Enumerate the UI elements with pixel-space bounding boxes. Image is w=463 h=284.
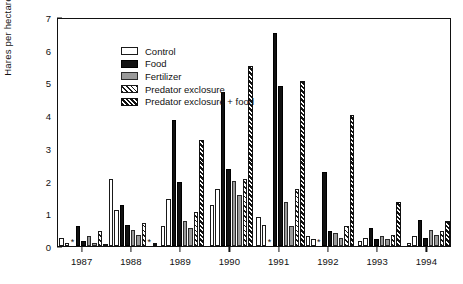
bar-1993-control [358,241,363,246]
bar-1989-control [166,199,171,246]
bar-1990-food [221,92,226,246]
y-axis-tick-4: 4 [46,111,57,122]
bar-1992-control [311,239,316,246]
legend: ControlFoodFertilizerPredator exclosureP… [121,45,254,108]
significance-marker: * [71,239,75,245]
bar-1991-food [273,33,278,246]
bar-1994-fert [434,235,439,246]
x-axis: 19871988198919901991199219931994 [57,247,451,281]
bar-1992-food [322,172,327,246]
bar-1991-food [278,86,283,246]
legend-label: Food [145,58,167,69]
bar-1991-fert [289,226,294,246]
y-axis-tick-1: 1 [46,209,57,220]
x-axis-tick-1987: 1987 [71,247,92,267]
x-axis-tick-mark [377,247,378,252]
bar-1988-food [125,225,130,246]
x-axis-tick-1988: 1988 [120,247,141,267]
bar-1987-exclfood [103,244,108,246]
y-axis-tick-label: 1 [46,209,51,220]
bar-1992-excl [344,226,349,246]
plot-area: **** ControlFoodFertilizerPredator exclo… [57,18,451,247]
bar-1993-fert [385,239,390,246]
legend-swatch-control-icon [121,47,138,55]
bar-1990-control [210,205,215,246]
x-axis-tick-label: 1991 [268,256,289,267]
bar-1992-food [328,231,333,246]
bar-1994-food [423,238,428,246]
bar-1988-food [120,205,125,246]
y-axis-tick-3: 3 [46,143,57,154]
significance-marker: * [317,239,321,245]
x-axis-tick-label: 1992 [317,256,338,267]
bar-1989-control [161,226,166,246]
bar-1992-fert [333,233,338,246]
bar-1991-control [256,217,261,246]
x-axis-tick-mark [426,247,427,252]
bar-1990-fert [232,181,237,246]
y-axis-tick-label: 4 [46,111,51,122]
x-axis-tick-mark [81,247,82,252]
y-axis-tick-7: 7 [46,13,57,24]
bar-1988-excl [142,223,147,246]
y-axis-tick-label: 3 [46,143,51,154]
bar-1990-food [226,169,231,246]
legend-item-excl: Predator exclosure [121,83,254,96]
bar-1987-fert [92,243,97,246]
bar-1991-fert [284,202,289,246]
legend-item-fert: Fertilizer [121,70,254,83]
bar-1987-control [59,238,64,246]
bar-1987-food [76,226,81,246]
y-axis-tick-6: 6 [46,45,57,56]
x-axis-tick-mark [229,247,230,252]
bar-1992-exclfood [350,115,355,246]
bar-1994-exclfood [445,221,450,246]
y-axis-title: Hares per hectare [2,0,13,96]
x-axis-tick-label: 1989 [170,256,191,267]
bar-1994-control [407,243,412,246]
x-axis-tick-1990: 1990 [219,247,240,267]
legend-swatch-excl-icon [121,85,138,93]
bar-1993-food [374,239,379,246]
y-axis-tick-2: 2 [46,176,57,187]
legend-swatch-food-icon [121,60,138,68]
x-axis-tick-mark [327,247,328,252]
bar-1987-excl [98,231,103,246]
y-axis-tick-label: 6 [46,45,51,56]
bar-1990-excl [243,179,248,246]
bar-1994-control [412,236,417,246]
x-axis-tick-mark [180,247,181,252]
x-axis-tick-1991: 1991 [268,247,289,267]
bar-1992-control [306,236,311,246]
bar-1991-exclfood [300,81,305,246]
legend-item-food: Food [121,58,254,71]
bar-1987-food [81,241,86,246]
legend-item-control: Control [121,45,254,58]
legend-item-exclfood: Predator exclosure + food [121,95,254,108]
bar-1989-food [172,120,177,246]
bar-1989-fert [183,221,188,246]
bar-1992-fert [339,238,344,246]
bar-1988-exclfood [153,243,158,246]
bar-1987-fert [87,236,92,246]
x-axis-tick-label: 1987 [71,256,92,267]
legend-label: Control [145,46,176,57]
bar-1989-excl [194,212,199,246]
x-axis-tick-label: 1994 [416,256,437,267]
bar-1989-fert [188,228,193,246]
significance-marker: * [268,239,272,245]
bar-1993-control [363,238,368,246]
x-axis-tick-label: 1988 [120,256,141,267]
bar-1988-fert [131,230,136,246]
bar-1989-food [177,182,182,246]
bar-1993-food [369,228,374,246]
bar-1988-control [109,179,114,246]
y-axis-tick-0: 0 [46,242,57,253]
bar-1993-excl [391,235,396,246]
bar-1990-fert [237,195,242,246]
x-axis-tick-1994: 1994 [416,247,437,267]
bar-1993-fert [380,236,385,246]
bar-1994-fert [429,230,434,246]
y-axis-tick-label: 7 [46,13,51,24]
x-axis-tick-1989: 1989 [170,247,191,267]
